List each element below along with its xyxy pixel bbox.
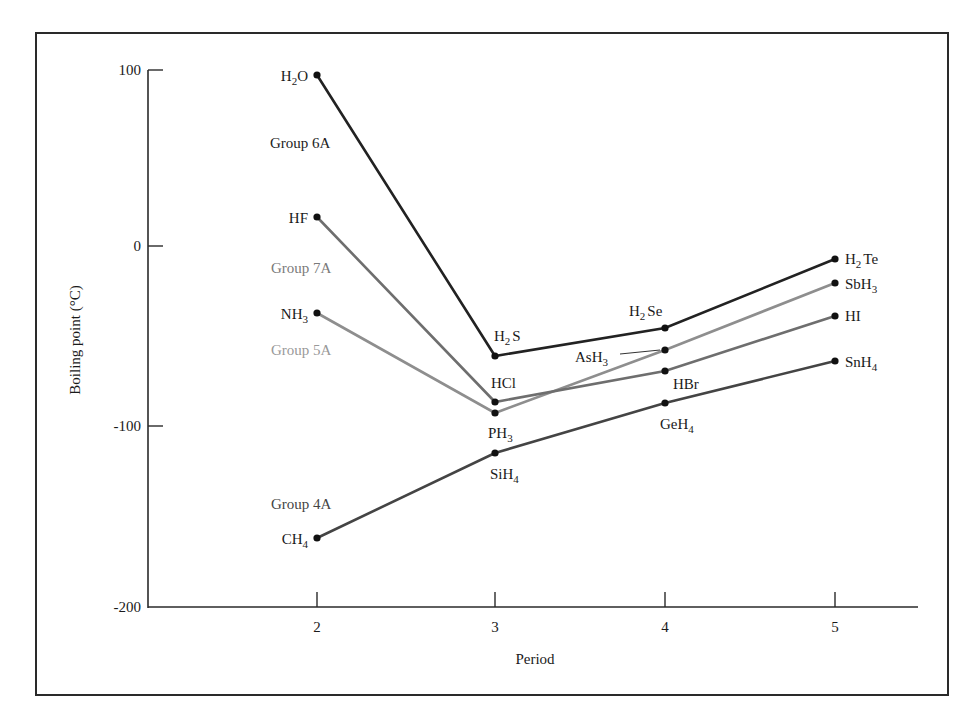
x-axis: 2 3 4 5 Period [148, 592, 918, 667]
y-tick-label: -100 [114, 418, 142, 434]
group-7a-label: Group 7A [271, 260, 332, 276]
x-axis-title: Period [515, 651, 555, 667]
label-ph3: PH3 [488, 425, 513, 444]
label-h2se: H2Se [629, 303, 663, 322]
y-tick-label: 100 [119, 62, 142, 78]
series-group-7a [313, 213, 838, 405]
y-tick-label: 0 [134, 238, 142, 254]
label-geh4: GeH4 [660, 416, 694, 435]
boiling-point-chart: 100 0 -100 -200 Boiling point (°C) 2 3 4… [0, 0, 978, 725]
label-h2o: H2O [281, 68, 308, 87]
label-hcl: HCl [491, 375, 516, 391]
x-tick-label: 2 [313, 619, 321, 635]
label-hi: HI [845, 308, 861, 324]
label-h2te: H2Te [845, 251, 878, 270]
x-tick-label: 5 [831, 619, 839, 635]
label-h2s: H2S [494, 328, 521, 347]
x-tick-label: 4 [661, 619, 669, 635]
group-5a-label: Group 5A [271, 342, 332, 358]
label-ash3: AsH3 [575, 349, 609, 368]
series-group-5a [313, 279, 838, 416]
series-group-6a [313, 71, 838, 359]
x-tick-label: 3 [491, 619, 499, 635]
y-tick-label: -200 [114, 599, 142, 615]
y-axis-title: Boiling point (°C) [67, 285, 84, 394]
label-sbh3: SbH3 [845, 276, 878, 295]
group-4a-label: Group 4A [271, 496, 332, 512]
label-nh3: NH3 [281, 306, 309, 325]
y-axis: 100 0 -100 -200 Boiling point (°C) [67, 62, 163, 615]
label-sih4: SiH4 [490, 466, 519, 485]
series-group-4a [313, 357, 838, 541]
group-6a-label: Group 6A [270, 135, 331, 151]
label-ch4: CH4 [282, 531, 309, 550]
label-hf: HF [289, 210, 308, 226]
label-hbr: HBr [673, 376, 699, 392]
label-snh4: SnH4 [845, 354, 878, 373]
